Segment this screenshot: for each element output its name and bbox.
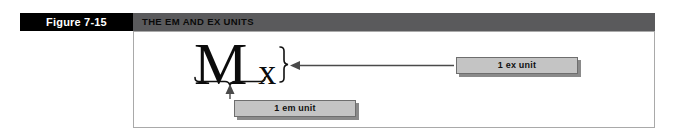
callout-ex-unit: 1 ex unit — [456, 57, 578, 74]
figure-title-band: THE EM AND EX UNITS — [133, 13, 655, 31]
figure-number-band: Figure 7-15 — [20, 13, 133, 31]
em-arrowhead-icon — [226, 84, 235, 94]
figure-number-label: Figure 7-15 — [46, 17, 107, 28]
figure-header: Figure 7-15 THE EM AND EX UNITS — [20, 13, 655, 31]
callout-em-unit: 1 em unit — [234, 100, 356, 117]
ex-rightbrace-icon — [280, 47, 288, 82]
figure-panel: M x 1 ex unit 1 em unit — [133, 31, 655, 128]
annotation-layer — [134, 32, 655, 128]
figure-title-label: THE EM AND EX UNITS — [142, 17, 254, 27]
callout-ex-unit-label: 1 ex unit — [498, 61, 536, 70]
ex-arrowhead-icon — [290, 61, 300, 70]
callout-em-unit-label: 1 em unit — [274, 104, 315, 113]
